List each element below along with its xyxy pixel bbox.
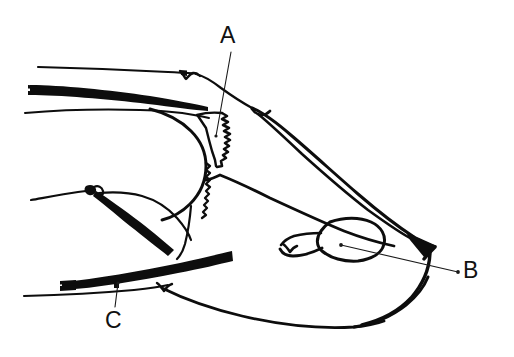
cavity-left-lip-upper — [281, 233, 321, 245]
snout-tip-fill — [406, 232, 437, 257]
lower-thin-line — [31, 191, 90, 201]
upper-line-hook-tick — [180, 70, 187, 76]
lower-solid-bar — [62, 251, 233, 290]
upper-lower-thin-line — [25, 110, 209, 118]
lower-jaw-outline — [162, 288, 384, 328]
lower-jaw-outline-right — [354, 277, 428, 327]
serrated-ridge-top — [197, 113, 222, 115]
cavity-lip-hook — [283, 244, 297, 252]
lower-bar-split-tail-2 — [60, 286, 76, 292]
figure-container: A B C — [0, 0, 514, 357]
cavity-left-lip — [280, 248, 322, 256]
label-c: C — [105, 309, 122, 332]
oval-cavity — [317, 218, 384, 261]
label-a: A — [220, 24, 235, 47]
upper-jaw-top-edge — [252, 108, 414, 237]
lower-diagonal-solid-bar — [93, 191, 174, 256]
upper-thin-line — [38, 67, 196, 74]
label-b: B — [463, 259, 478, 282]
upper-solid-bar — [30, 85, 208, 111]
upper-bar-split-tail-2 — [28, 91, 44, 95]
right-outer-curve — [362, 251, 430, 325]
line-drawing-canvas — [0, 0, 514, 357]
lobe-serrated-edge — [202, 163, 210, 218]
leader-b — [339, 243, 460, 274]
